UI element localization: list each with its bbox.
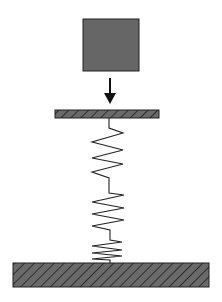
spring-mass-diagram — [0, 0, 222, 302]
spring — [92, 118, 124, 264]
mass-block — [83, 19, 139, 71]
diagram-canvas — [0, 0, 222, 302]
down-arrow-icon — [104, 78, 116, 104]
ground-base — [13, 263, 209, 287]
top-plate — [55, 110, 159, 118]
